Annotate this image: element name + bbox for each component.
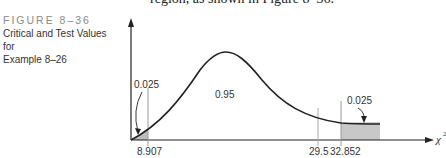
tick-label-8907: 8.907 <box>137 146 162 157</box>
left-tail-pointer-arrow <box>136 92 142 132</box>
x-axis-label: χ <box>435 133 442 145</box>
right-arrowhead-icon <box>361 116 367 123</box>
center-area-label: 0.95 <box>215 89 235 100</box>
x-axis-arrow-icon <box>425 137 434 143</box>
left-tail-area-label: 0.025 <box>134 79 159 90</box>
right-tail-area-label: 0.025 <box>347 95 372 106</box>
y-axis-arrow-icon <box>128 18 134 27</box>
chi-square-chart: χ 2 0.025 0.95 0.025 8.907 29.5 32.852 <box>0 0 446 158</box>
tick-label-32852: 32.852 <box>330 146 361 157</box>
tick-label-29-5: 29.5 <box>309 146 329 157</box>
